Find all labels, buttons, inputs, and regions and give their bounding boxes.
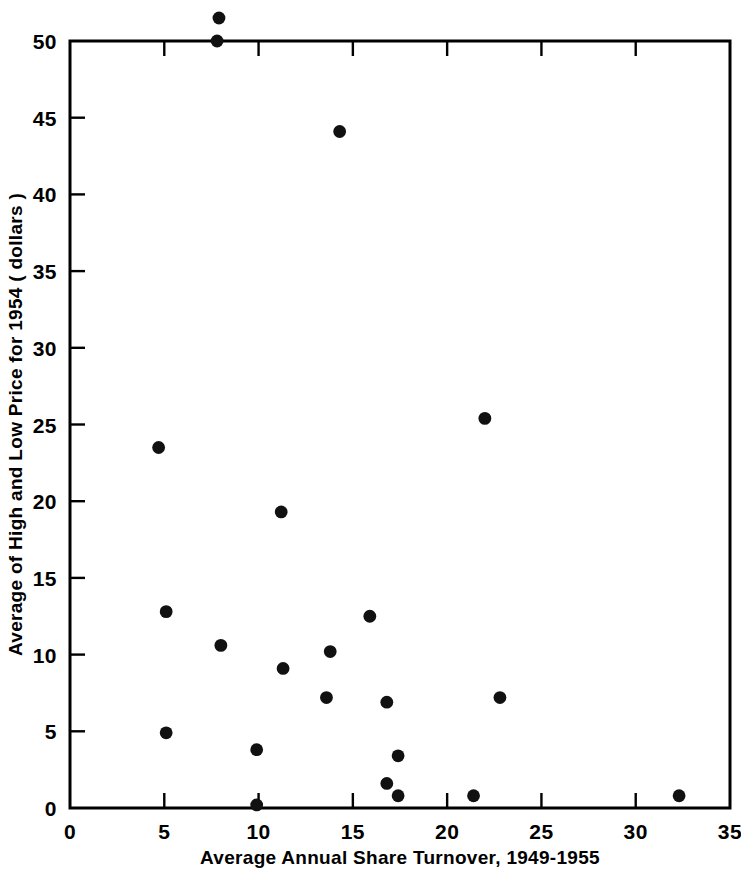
x-tick-label: 35	[718, 820, 741, 843]
data-point	[478, 412, 491, 425]
y-tick-label: 5	[45, 720, 57, 743]
data-point	[250, 799, 263, 812]
y-tick-label: 45	[33, 107, 57, 130]
data-point	[380, 696, 393, 709]
data-point	[213, 12, 226, 25]
data-point	[275, 506, 288, 519]
x-tick-label: 0	[64, 820, 76, 843]
y-tick-label: 25	[33, 414, 57, 437]
data-point	[320, 691, 333, 704]
x-tick-label: 25	[529, 820, 553, 843]
data-point	[277, 662, 290, 675]
axes-box	[70, 41, 730, 808]
data-point	[673, 789, 686, 802]
data-point	[494, 691, 507, 704]
y-axis-tick-labels: 05101520253035404550	[33, 30, 57, 820]
axes-frame	[70, 41, 730, 808]
data-point	[392, 789, 405, 802]
data-point	[392, 749, 405, 762]
y-axis-title: Average of High and Low Price for 1954 (…	[5, 193, 26, 656]
y-tick-label: 50	[33, 30, 57, 53]
data-points-layer	[152, 12, 685, 812]
plot-canvas: 05101520253035 05101520253035404550 Aver…	[0, 0, 741, 869]
data-point	[333, 125, 346, 138]
data-point	[250, 743, 263, 756]
x-tick-label: 10	[246, 820, 270, 843]
x-axis-ticks	[164, 41, 635, 808]
scatter-plot-figure: 05101520253035 05101520253035404550 Aver…	[0, 0, 741, 869]
y-tick-label: 0	[45, 797, 57, 820]
data-point	[324, 645, 337, 658]
y-axis-ticks	[70, 118, 85, 732]
y-tick-label: 15	[33, 567, 57, 590]
data-point	[363, 610, 376, 623]
data-point	[152, 441, 165, 454]
x-axis-title: Average Annual Share Turnover, 1949-1955	[200, 847, 600, 868]
data-point	[467, 789, 480, 802]
x-tick-label: 5	[158, 820, 170, 843]
y-tick-label: 40	[33, 183, 57, 206]
y-tick-label: 20	[33, 490, 57, 513]
x-tick-label: 20	[435, 820, 459, 843]
data-point	[214, 639, 227, 652]
x-tick-label: 30	[624, 820, 648, 843]
x-axis-tick-labels: 05101520253035	[64, 820, 741, 843]
y-tick-label: 30	[33, 337, 57, 360]
data-point	[380, 777, 393, 790]
data-point	[160, 605, 173, 618]
y-tick-label: 35	[33, 260, 57, 283]
data-point	[211, 35, 224, 48]
y-tick-label: 10	[33, 644, 57, 667]
data-point	[160, 726, 173, 739]
x-tick-label: 15	[341, 820, 365, 843]
